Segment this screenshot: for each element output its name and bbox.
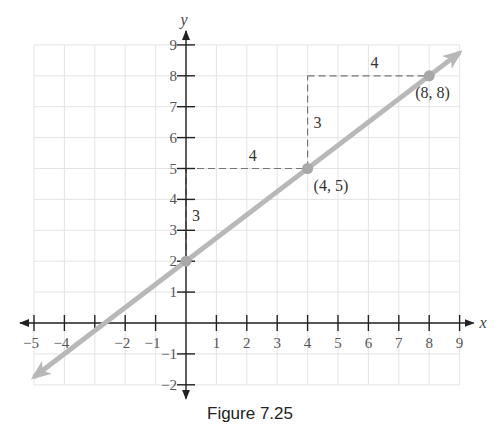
slope-run-label: 4: [370, 54, 378, 71]
data-point: [181, 256, 192, 267]
y-tick-label: −2: [161, 377, 177, 393]
y-tick-label: 1: [170, 284, 178, 300]
x-tick-label: −2: [114, 335, 130, 351]
x-tick-label: 3: [273, 335, 281, 351]
data-point: [302, 163, 313, 174]
y-tick-label: 4: [170, 191, 178, 207]
x-tick-label: 1: [213, 335, 221, 351]
x-tick-label: 4: [304, 335, 312, 351]
slope-run-label: 4: [249, 147, 257, 164]
slope-rise-label: 3: [192, 207, 200, 224]
x-tick-label: 2: [243, 335, 251, 351]
y-tick-label: 5: [170, 161, 178, 177]
y-tick-label: 6: [170, 130, 178, 146]
figure-caption: Figure 7.25: [0, 404, 500, 424]
point-label: (4, 5): [314, 177, 349, 195]
x-tick-label: −5: [23, 335, 39, 351]
y-tick-label: 7: [170, 99, 178, 115]
x-tick-label: −1: [145, 335, 161, 351]
y-tick-label: 3: [170, 222, 178, 238]
x-tick-label: 9: [456, 335, 464, 351]
x-axis-label: x: [479, 314, 487, 331]
x-tick-label: −4: [53, 335, 69, 351]
data-point: [424, 70, 435, 81]
x-tick-label: 5: [334, 335, 342, 351]
y-axis-label: y: [178, 11, 188, 29]
y-tick-label: 9: [170, 37, 178, 53]
slope-rise-label: 3: [314, 114, 322, 131]
x-tick-label: 6: [365, 335, 373, 351]
y-tick-label: 2: [170, 253, 178, 269]
point-label: (8, 8): [415, 84, 450, 102]
x-tick-label: 7: [395, 335, 403, 351]
y-tick-label: 8: [170, 68, 178, 84]
x-tick-label: 8: [425, 335, 433, 351]
y-tick-label: −1: [161, 346, 177, 362]
